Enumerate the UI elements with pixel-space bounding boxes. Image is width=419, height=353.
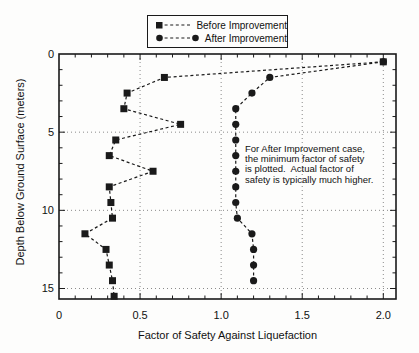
legend-label-before-improvement: Before Improvement bbox=[196, 20, 287, 31]
marker-square-before-improvement bbox=[150, 168, 157, 175]
marker-square-before-improvement bbox=[109, 277, 116, 284]
marker-square-before-improvement bbox=[106, 183, 113, 190]
marker-circle-after-improvement bbox=[232, 152, 239, 159]
marker-square-before-improvement bbox=[106, 262, 113, 269]
marker-circle-after-improvement bbox=[232, 136, 239, 143]
marker-square-before-improvement bbox=[107, 199, 114, 206]
marker-circle-after-improvement bbox=[250, 261, 257, 268]
marker-square-before-improvement bbox=[380, 58, 387, 65]
x-tick-label: 1.5 bbox=[295, 309, 310, 321]
marker-square-before-improvement bbox=[103, 246, 110, 253]
legend-label-after-improvement: After Improvement bbox=[205, 33, 287, 44]
legend: Before Improvement After Improvement bbox=[147, 15, 288, 48]
legend-item-after-improvement: After Improvement bbox=[155, 33, 287, 44]
marker-square-before-improvement bbox=[106, 152, 113, 159]
marker-circle-after-improvement bbox=[248, 89, 255, 96]
marker-square-before-improvement bbox=[124, 90, 131, 97]
marker-circle-after-improvement bbox=[248, 230, 255, 237]
annotation-line: safety is typically much higher. bbox=[245, 175, 390, 185]
y-tick-label: 15 bbox=[42, 282, 54, 294]
marker-circle-after-improvement bbox=[234, 215, 241, 222]
marker-circle-after-improvement bbox=[232, 183, 239, 190]
legend-item-before-improvement: Before Improvement bbox=[155, 20, 287, 31]
square-dashed-line-icon bbox=[155, 20, 190, 30]
x-tick-label: 0.5 bbox=[132, 309, 147, 321]
marker-square-before-improvement bbox=[111, 293, 118, 300]
y-tick-label: 5 bbox=[48, 126, 54, 138]
marker-circle-after-improvement bbox=[232, 105, 239, 112]
y-tick-label: 0 bbox=[48, 48, 54, 60]
annotation-note: For After Improvement case, the minimum … bbox=[245, 144, 390, 185]
marker-circle-after-improvement bbox=[232, 199, 239, 206]
marker-square-before-improvement bbox=[112, 136, 119, 143]
marker-square-before-improvement bbox=[177, 121, 184, 128]
x-axis-title: Factor of Safety Against Liquefaction bbox=[59, 329, 396, 341]
marker-circle-after-improvement bbox=[232, 121, 239, 128]
y-axis-title: Depth Below Ground Surface (meters) bbox=[14, 62, 26, 282]
marker-square-before-improvement bbox=[109, 215, 116, 222]
marker-square-before-improvement bbox=[120, 105, 127, 112]
x-tick-label: 1.0 bbox=[214, 309, 229, 321]
x-tick-label: 2.0 bbox=[376, 309, 391, 321]
marker-square-before-improvement bbox=[161, 74, 168, 81]
chart-figure: 00.51.01.52.0051015 Depth Below Ground S… bbox=[0, 0, 419, 353]
y-tick-label: 10 bbox=[42, 204, 54, 216]
x-tick-label: 0 bbox=[56, 309, 62, 321]
marker-circle-after-improvement bbox=[250, 277, 257, 284]
marker-circle-after-improvement bbox=[266, 74, 273, 81]
marker-circle-after-improvement bbox=[250, 246, 257, 253]
marker-circle-after-improvement bbox=[232, 168, 239, 175]
marker-square-before-improvement bbox=[81, 230, 88, 237]
circle-dashed-line-icon bbox=[155, 33, 199, 43]
